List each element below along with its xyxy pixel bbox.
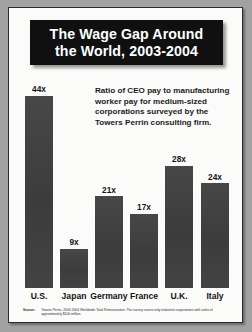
title-banner: The Wage Gap Around the World, 2003-2004 (30, 20, 223, 65)
bar-us (25, 96, 53, 289)
x-label-france: France (124, 291, 164, 301)
bar-column-uk: 28x (165, 78, 193, 288)
bar-column-france: 17x (130, 78, 158, 288)
x-label-japan: Japan (54, 291, 94, 301)
bar-japan (60, 249, 88, 288)
bar-column-italy: 24x (201, 78, 229, 288)
bar-france (130, 214, 158, 288)
poster-sheet: The Wage Gap Around the World, 2003-2004… (9, 8, 242, 322)
bar-column-japan: 9x (60, 78, 88, 288)
x-label-germany: Germany (89, 291, 129, 301)
x-label-italy: Italy (195, 291, 235, 301)
poster-frame: The Wage Gap Around the World, 2003-2004… (8, 7, 243, 323)
bar-column-us: 44x (25, 78, 53, 288)
x-label-us: U.S. (19, 291, 59, 301)
title-line-1: The Wage Gap Around (50, 26, 204, 43)
bar-chart-plot: 44x 9x 21x 17x 28x (25, 78, 231, 288)
bar-value-france: 17x (130, 202, 158, 212)
source-label: Source: (23, 308, 35, 312)
poster-root: The Wage Gap Around the World, 2003-2004… (0, 0, 252, 332)
bar-column-germany: 21x (95, 78, 123, 288)
source-text: Towers Perrin, 2003-2004 Worldwide Total… (41, 308, 229, 317)
bar-value-japan: 9x (60, 237, 88, 247)
bar-value-italy: 24x (201, 172, 229, 182)
bar-value-us: 44x (25, 84, 53, 94)
x-axis-labels: U.S. Japan Germany France U.K. Italy (25, 291, 231, 305)
bar-value-uk: 28x (165, 154, 193, 164)
bar-germany (95, 196, 123, 288)
bar-uk (165, 166, 193, 289)
bar-italy (201, 183, 229, 288)
x-label-uk: U.K. (159, 291, 199, 301)
source-footnote: Source: Towers Perrin, 2003-2004 Worldwi… (23, 308, 229, 317)
title-line-2: the World, 2003-2004 (55, 43, 198, 60)
bar-value-germany: 21x (95, 185, 123, 195)
